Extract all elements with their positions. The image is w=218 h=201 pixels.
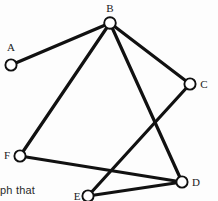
graph-node-d[interactable] <box>176 176 187 187</box>
graph-node-label-d: D <box>192 176 200 188</box>
graph-node-b[interactable] <box>104 17 116 29</box>
graph-node-e[interactable] <box>82 190 93 201</box>
graph-node-label-a: A <box>7 41 15 53</box>
graph-edge-c-e <box>88 84 190 196</box>
graph-node-f[interactable] <box>14 150 25 161</box>
caption-text-fragment: ph that <box>0 184 35 196</box>
graph-node-label-f: F <box>4 149 10 161</box>
graph-node-c[interactable] <box>184 78 195 89</box>
graph-edge-b-c <box>110 23 190 84</box>
graph-node-label-c: C <box>200 78 207 90</box>
graph-node-a[interactable] <box>5 59 16 70</box>
graph-node-label-b: B <box>106 2 113 14</box>
graph-diagram-canvas: ABCDEF ph that <box>0 0 218 201</box>
graph-edge-f-d <box>20 156 182 182</box>
edges-group <box>11 23 190 196</box>
graph-svg: ABCDEF <box>0 0 218 201</box>
graph-node-label-e: E <box>74 190 81 201</box>
graph-edge-e-d <box>88 182 182 196</box>
